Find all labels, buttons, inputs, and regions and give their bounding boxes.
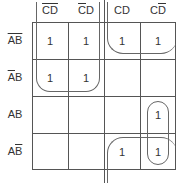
divider-extension-bottom (104, 170, 105, 183)
divider-extension-top (104, 0, 105, 22)
row-label-2: AB (0, 108, 30, 120)
row-label-3: AB (0, 145, 30, 157)
group-loop-top-pair (107, 2, 176, 54)
group-loop-quad (36, 2, 100, 92)
group-loop-bottom-pair (107, 137, 176, 183)
kmap-cell (104, 96, 140, 133)
kmap-cell (68, 133, 104, 170)
kmap-cell (104, 59, 140, 96)
row-label-0: AB (0, 34, 30, 46)
row-label-1: AB (0, 71, 30, 83)
kmap-cell (32, 96, 68, 133)
kmap-cell (32, 133, 68, 170)
kmap-cell (68, 96, 104, 133)
kmap-cell (140, 59, 176, 96)
